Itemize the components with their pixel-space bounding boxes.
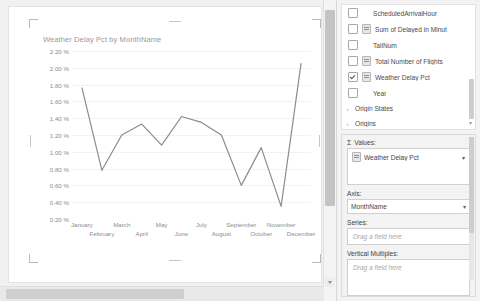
checkbox-icon[interactable] <box>348 40 358 50</box>
measure-icon <box>352 152 361 162</box>
field-list-item-label: Year <box>373 90 386 97</box>
series-area-label: Series: <box>347 219 470 226</box>
x-axis-tick-label: June <box>175 230 188 237</box>
checkbox-icon[interactable] <box>348 8 358 18</box>
x-axis-tick-label: October <box>250 230 272 237</box>
resize-handle-bottom-left[interactable] <box>29 254 38 263</box>
resize-handle-top-left[interactable] <box>29 19 38 28</box>
pivotchart-object[interactable]: Weather Delay Pct by MonthName 2.20 %2.0… <box>29 19 321 263</box>
y-axis-tick-label: 2.20 % <box>50 48 69 55</box>
values-drop-box[interactable]: Weather Delay Pct ▾ <box>347 148 470 185</box>
field-list-item-label: ScheduledArrivalHour <box>373 10 437 17</box>
sigma-icon: Σ <box>347 139 351 146</box>
y-axis-tick-label: 0.20 % <box>50 216 69 223</box>
x-axis-labels: JanuaryFebruaryMarchAprilMayJuneJulyAugu… <box>72 221 311 245</box>
excel-pivotchart-screen: Weather Delay Pct by MonthName 2.20 %2.0… <box>0 0 480 301</box>
x-axis-tick-label: January <box>71 221 93 228</box>
y-axis-tick-label: 0.80 % <box>50 165 69 172</box>
vertical-multiples-placeholder: Drag a field here <box>350 262 467 273</box>
chart-plot-wrapper: 2.20 %2.00 %1.80 %1.60 %1.40 %1.20 %1.00… <box>39 51 311 247</box>
resize-handle-middle-right[interactable] <box>319 135 320 147</box>
values-field-label: Weather Delay Pct <box>364 154 459 161</box>
values-field-pill[interactable]: Weather Delay Pct ▾ <box>350 151 467 163</box>
x-axis-tick-label: February <box>89 230 114 237</box>
plot-area[interactable] <box>72 51 311 219</box>
axis-area-label: Axis: <box>347 190 470 197</box>
resize-handle-middle-left[interactable] <box>30 135 31 147</box>
measure-icon <box>362 24 371 34</box>
pane-vertical-scrollbar[interactable] <box>469 137 474 280</box>
field-list-more-icon[interactable]: ▾ <box>467 120 474 127</box>
checkbox-icon[interactable] <box>348 56 358 66</box>
measure-icon <box>362 72 371 82</box>
checkbox-icon[interactable] <box>348 88 358 98</box>
series-drop-box[interactable]: Drag a field here <box>347 228 470 245</box>
field-group-item[interactable]: ›Origins <box>342 116 475 130</box>
series-placeholder: Drag a field here <box>350 231 467 242</box>
x-axis-tick-label: August <box>212 230 231 237</box>
y-axis-labels: 2.20 %2.00 %1.80 %1.60 %1.40 %1.20 %1.00… <box>39 51 69 219</box>
values-label-text: Values: <box>354 139 376 146</box>
x-axis-tick-label: July <box>196 221 207 228</box>
axis-field-pill[interactable]: MonthName ▾ <box>348 200 469 213</box>
y-axis-tick-label: 1.60 % <box>50 98 69 105</box>
x-axis-tick-label: March <box>113 221 130 228</box>
axis-field-label: MonthName <box>351 203 387 210</box>
field-list-item-label: TailNum <box>373 42 397 49</box>
resize-handle-bottom-right[interactable] <box>312 254 321 263</box>
field-list-scroll-thumb[interactable] <box>469 79 474 119</box>
field-list-item[interactable]: Weather Delay Pct <box>342 69 475 85</box>
scroll-down-arrow-icon[interactable] <box>325 277 335 287</box>
field-group-item[interactable]: ›Origin States <box>342 101 475 116</box>
sheet-vertical-scrollbar[interactable] <box>323 0 336 287</box>
checkbox-checked-icon[interactable] <box>348 72 358 82</box>
field-group-label: Origins <box>355 120 376 127</box>
field-list-item[interactable]: ScheduledArrivalHour <box>342 5 475 21</box>
resize-handle-bottom-center[interactable] <box>169 260 181 261</box>
y-axis-tick-label: 2.00 % <box>50 64 69 71</box>
resize-handle-top-right[interactable] <box>312 19 321 28</box>
chart-title: Weather Delay Pct by MonthName <box>43 35 161 44</box>
series-weather-delay-pct <box>82 64 301 207</box>
chevron-down-icon[interactable]: ▾ <box>463 203 466 210</box>
sheet-horizontal-scroll-thumb[interactable] <box>6 289 184 299</box>
y-axis-tick-label: 0.40 % <box>50 199 69 206</box>
sheet-canvas[interactable]: Weather Delay Pct by MonthName 2.20 %2.0… <box>8 6 322 283</box>
field-list-item[interactable]: Total Number of Flights <box>342 53 475 69</box>
y-axis-tick-label: 0.60 % <box>50 182 69 189</box>
x-axis-tick-label: April <box>136 230 148 237</box>
y-axis-tick-label: 1.00 % <box>50 148 69 155</box>
y-axis-tick-label: 1.40 % <box>50 115 69 122</box>
axis-drop-box[interactable]: MonthName ▾ <box>347 199 470 214</box>
x-axis-tick-label: September <box>226 221 256 228</box>
field-list-item[interactable]: TailNum <box>342 37 475 53</box>
sheet-horizontal-scrollbar[interactable] <box>0 286 324 301</box>
pivotchart-fields-pane: ScheduledArrivalHourSum of Delayed in Mi… <box>336 0 480 301</box>
sheet-vertical-scroll-thumb[interactable] <box>325 10 335 206</box>
field-list[interactable]: ScheduledArrivalHourSum of Delayed in Mi… <box>341 4 476 130</box>
chevron-right-icon[interactable]: › <box>344 106 351 112</box>
field-group-label: Origin States <box>355 105 393 112</box>
field-areas-section: Σ Values: Weather Delay Pct ▾ Axis: Mont… <box>341 134 476 297</box>
x-axis-tick-label: December <box>287 230 316 237</box>
y-axis-tick-label: 1.20 % <box>50 132 69 139</box>
y-axis-tick-label: 1.80 % <box>50 81 69 88</box>
vertical-multiples-drop-box[interactable]: Drag a field here <box>347 259 470 296</box>
chevron-right-icon[interactable]: › <box>344 121 351 127</box>
measure-icon <box>362 56 371 66</box>
resize-handle-top-center[interactable] <box>169 21 181 22</box>
field-list-item-label: Total Number of Flights <box>375 58 443 65</box>
line-series-svg <box>72 51 311 219</box>
scrollbar-corner <box>324 287 336 301</box>
vertical-multiples-area-label: Vertical Multiples: <box>347 250 470 257</box>
chevron-down-icon[interactable]: ▾ <box>462 154 465 161</box>
field-list-item[interactable]: Sum of Delayed in Minut <box>342 21 475 37</box>
worksheet-area[interactable]: Weather Delay Pct by MonthName 2.20 %2.0… <box>0 0 336 301</box>
x-axis-tick-label: November <box>267 221 296 228</box>
field-list-item-label: Weather Delay Pct <box>375 74 430 81</box>
pane-vertical-scroll-thumb[interactable] <box>469 137 474 233</box>
field-list-item-label: Sum of Delayed in Minut <box>375 26 447 33</box>
checkbox-icon[interactable] <box>348 24 358 34</box>
values-area-label: Σ Values: <box>347 139 470 146</box>
field-list-item[interactable]: Year <box>342 85 475 101</box>
